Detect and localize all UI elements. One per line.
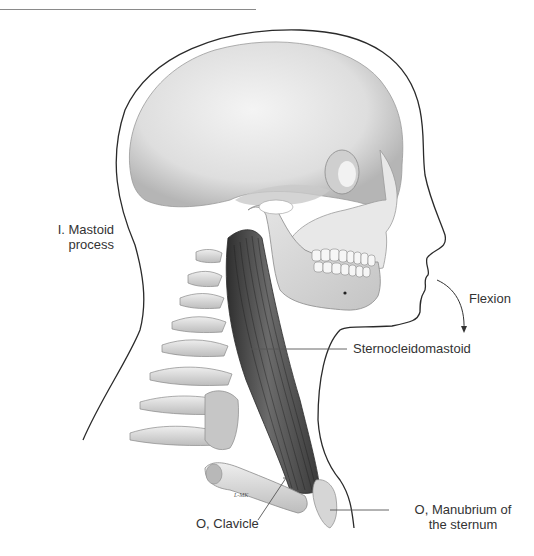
label-manubrium-line1: O, Manubrium of <box>393 502 533 517</box>
mental-foramen <box>343 291 346 294</box>
label-manubrium: O, Manubrium of the sternum <box>393 502 533 532</box>
label-mastoid-line2: process <box>30 237 114 252</box>
artist-signature: L-MK <box>233 492 249 498</box>
skull-cranium <box>129 42 402 212</box>
flexion-arrow <box>437 280 464 330</box>
label-mastoid-line1: I. Mastoid <box>30 222 114 237</box>
cervical-vertebrae <box>130 249 239 449</box>
head-neck-illustration: L-MK <box>0 0 534 556</box>
label-flexion: Flexion <box>469 291 511 306</box>
manubrium <box>313 480 337 528</box>
label-mastoid-process: I. Mastoid process <box>30 222 114 252</box>
label-clavicle: O, Clavicle <box>196 516 259 531</box>
label-sternocleidomastoid: Sternocleidomastoid <box>353 341 471 356</box>
label-manubrium-line2: the sternum <box>393 517 533 532</box>
anatomy-figure: L-MK I. Mastoid process Flexion Sternocl… <box>0 0 534 556</box>
